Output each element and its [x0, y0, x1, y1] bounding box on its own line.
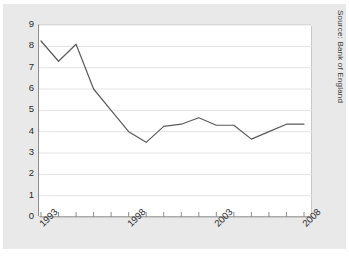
source-note: Source: Bank of England	[336, 10, 345, 103]
y-tick-label: 9	[6, 19, 34, 29]
y-tick-label: 4	[6, 126, 34, 136]
y-tick-label: 1	[6, 190, 34, 200]
figure-container: 0123456789 1993199820032008 Source: Bank…	[0, 0, 349, 276]
y-tick-label: 8	[6, 40, 34, 50]
line-chart-svg	[39, 25, 312, 217]
y-tick-label: 2	[6, 168, 34, 178]
data-series-line	[41, 41, 304, 142]
y-tick-label: 0	[6, 211, 34, 221]
x-axis-ticks	[41, 212, 304, 217]
y-tick-label: 6	[6, 83, 34, 93]
y-tick-label: 3	[6, 147, 34, 157]
y-tick-label: 7	[6, 62, 34, 72]
plot-area	[38, 24, 311, 216]
y-tick-label: 5	[6, 104, 34, 114]
